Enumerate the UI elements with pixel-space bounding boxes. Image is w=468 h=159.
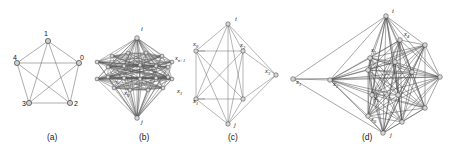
panel-b-node [170,77,174,81]
panel-d-node [423,43,428,48]
panel-d-node [368,56,373,61]
vertex-label: i [141,25,143,32]
panel-d-graph: ijx1x2x3x4x5x6 [291,7,443,138]
panel-b-apex-node [135,36,140,41]
panel-b-node [128,88,132,92]
panel-c-node [226,122,230,126]
panel-d-edge [425,45,440,77]
vertex-label: x3 [370,46,377,55]
panel-b-node [154,64,158,68]
panel-b-node [126,51,130,55]
panel-c-edge [196,24,228,51]
panel-b-node [106,75,110,79]
panel-b-node [170,60,174,64]
panel-b-node [146,88,150,92]
panel-caption-c: (c) [228,132,238,142]
vertex-label: 3 [22,100,26,107]
vertex-label: 4 [13,54,17,61]
panel-b-node [95,60,99,64]
panel-a-node [45,38,50,43]
vertex-label: 1 [44,30,48,37]
panel-d-edge [293,77,440,79]
panel-c-node [241,97,245,101]
panel-d-node [381,131,386,136]
panel-a-node [26,100,31,105]
vertex-label: x6 [370,115,377,124]
panel-caption-d: (d) [362,132,373,142]
panel-a-edge [29,41,48,103]
panel-b-node [166,75,170,79]
panel-caption-a: (a) [47,132,58,142]
panel-b-node [166,65,170,69]
panel-d-node [366,68,371,73]
panel-b-node [161,86,165,90]
panel-a-edge [17,41,48,63]
panel-a-node [76,60,81,65]
panel-a-edge [17,63,29,103]
panel-d-node [438,75,443,80]
panel-captions: (a)(b)(c)(d) [47,132,373,142]
vertex-label: xn+1 [174,54,185,63]
vertex-label: x2 [239,41,246,50]
panel-b-node [154,76,158,80]
panel-d-node [398,38,403,43]
panel-a-edge [48,41,70,103]
panel-d-edge [402,45,425,122]
vertex-label: 2 [74,100,78,107]
panel-d-node [328,78,333,83]
panel-d-node [423,106,428,111]
panel-d-node [393,60,398,65]
panel-c-node [226,22,230,26]
panel-b-node [95,77,99,81]
panel-c-node [194,49,198,53]
panel-c-edge [228,24,276,75]
vertex-label: x1 [176,87,182,96]
panel-d-edge [330,80,398,95]
panel-b-apex-node [135,116,140,121]
panel-d-edge [425,77,440,108]
vertex-label: j [233,121,236,128]
panel-caption-b: (b) [139,132,150,142]
vertex-label: j [140,118,143,125]
figure-panel-group: 10234 ijx0x1xn+1 ijx0x1x2x3 ijx1x2x3x4x5… [0,0,468,159]
panel-c-edge [228,75,276,124]
panel-b-node [112,86,116,90]
panel-d-edge [368,108,425,116]
panel-a-edge [48,41,79,63]
panel-c-graph: ijx0x1x2x3 [192,15,278,128]
panel-a-edge [17,63,70,103]
panel-b-node [138,63,142,67]
panel-c-node [274,73,278,77]
panel-a-graph: 10234 [13,30,84,107]
panel-b-edge [108,77,137,118]
panel-c-edge [243,51,276,75]
panel-b-node [122,64,126,68]
panel-c-edge [196,99,228,124]
vertex-label: x0 [192,40,199,49]
vertex-label: j [389,131,392,138]
panel-b-node [122,76,126,80]
panel-d-node [366,114,371,119]
panel-b-node [144,51,148,55]
panel-d-node [291,77,296,82]
vertex-label: 0 [80,54,84,61]
panel-b-node [138,77,142,81]
panel-b-node [106,65,110,69]
vertex-label: i [392,7,394,14]
figure-svg: 10234 ijx0x1xn+1 ijx0x1x2x3 ijx1x2x3x4x5… [0,0,468,159]
panel-d-node [396,93,401,98]
panel-c-edge [243,75,276,99]
panel-a-node [67,100,72,105]
panel-b-node [110,54,114,58]
vertex-label: x4 [403,30,410,39]
panel-b-graph: ijx0x1xn+1 [95,25,185,125]
vertex-label: i [235,15,237,22]
panel-a-node [14,60,19,65]
vertex-label: x2 [332,80,339,89]
panel-b-node [160,54,164,58]
panel-d-node [410,70,415,75]
panel-d-node [400,120,405,125]
panel-d-node [384,14,389,19]
